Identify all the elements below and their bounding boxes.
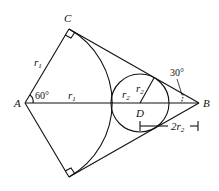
angle-arc-B — [181, 94, 183, 103]
angle-arc-A — [30, 95, 33, 103]
segment-CB — [69, 29, 199, 103]
label-r2-axis: r2 — [122, 88, 130, 102]
segment-EB — [69, 103, 199, 177]
geometry-diagram: C A B D r1 r1 r2 r2 2r2 60° 30° — [0, 0, 219, 191]
angle-label-A: 60° — [35, 90, 49, 101]
label-r1-side: r1 — [34, 56, 42, 70]
label-r2-radius: r2 — [136, 82, 144, 96]
label-C: C — [64, 12, 72, 24]
label-D: D — [135, 107, 144, 119]
label-A: A — [13, 97, 21, 109]
label-B: B — [203, 97, 210, 109]
label-2r2: 2r2 — [171, 120, 185, 134]
angle-label-B: 30° — [170, 67, 184, 78]
segment-AE — [25, 103, 69, 177]
angle-B-leader — [177, 79, 182, 95]
label-r1-axis: r1 — [68, 89, 76, 103]
